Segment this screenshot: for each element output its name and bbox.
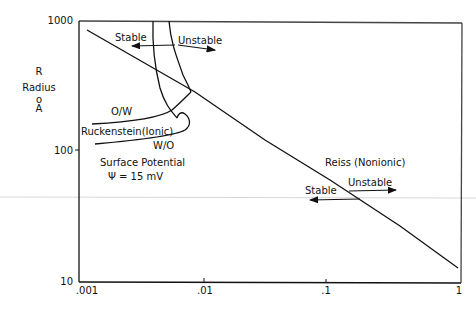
stability-boundary-left <box>153 21 177 118</box>
y-tick-100: 100 <box>54 145 73 156</box>
y-axis-label: R Radius o A <box>22 66 56 114</box>
label-psi: Ψ = 15 mV <box>108 171 163 182</box>
ow-curve <box>92 92 191 124</box>
x-tick-0.1: .1 <box>321 285 331 296</box>
x-tick-0.001: .001 <box>76 285 98 296</box>
stability-boundary-right <box>169 21 191 92</box>
label-unstable-bottom: Unstable <box>348 177 392 188</box>
y-tick-10: 10 <box>60 276 73 287</box>
y-axis-ticks: 1000 100 10 <box>48 15 79 287</box>
scan-artifact-line <box>0 197 476 198</box>
x-axis-ticks: .001 .01 .1 1 <box>76 278 462 296</box>
label-surface-potential: Surface Potential <box>100 157 185 168</box>
label-ow: O/W <box>111 106 132 117</box>
svg-text:R: R <box>36 66 43 77</box>
label-reiss: Reiss (Nonionic) <box>325 157 405 168</box>
svg-text:A: A <box>36 103 43 114</box>
label-stable-bottom: Stable <box>305 185 337 196</box>
svg-text:Radius: Radius <box>22 82 56 93</box>
x-tick-0.01: .01 <box>197 285 213 296</box>
label-stable-top: Stable <box>115 32 147 43</box>
log-log-diagram: 1000 100 10 .001 .01 .1 1 R Radius o A S… <box>0 0 476 312</box>
label-unstable-top: Unstable <box>178 35 222 46</box>
plot-frame <box>79 21 462 283</box>
x-tick-1: 1 <box>456 285 462 296</box>
label-wo: W/O <box>153 140 174 151</box>
label-ruckenstein: Ruckenstein(Ionic) <box>81 126 173 137</box>
reiss-curve <box>87 30 458 268</box>
y-tick-1000: 1000 <box>48 15 73 26</box>
